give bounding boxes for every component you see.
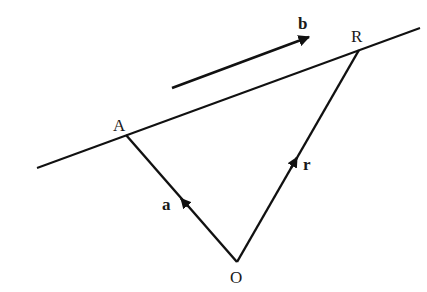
vector-b-arrow (172, 37, 309, 88)
segment-or (237, 50, 359, 262)
vector-r-arrowhead-icon (291, 158, 297, 169)
point-label-o: O (230, 268, 242, 287)
vector-diagram: A R O b a r (0, 0, 427, 292)
vector-a-arrowhead-icon (181, 199, 188, 207)
point-label-r: R (351, 27, 363, 46)
vector-label-b: b (298, 14, 307, 33)
vector-label-a: a (162, 195, 171, 214)
vector-label-r: r (303, 155, 311, 174)
point-label-a: A (113, 116, 126, 135)
line-ar (37, 28, 420, 168)
